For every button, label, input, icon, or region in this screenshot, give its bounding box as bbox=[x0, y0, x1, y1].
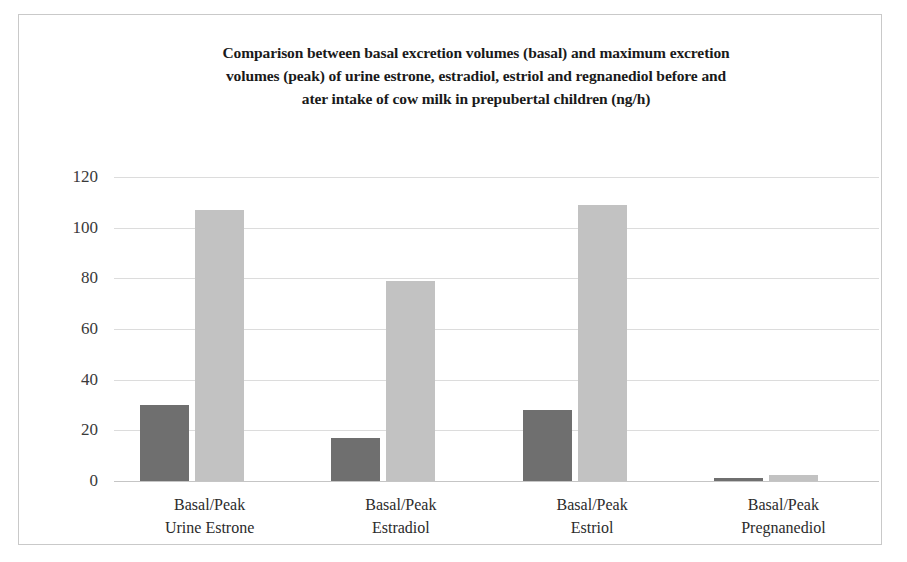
y-tick-label-20: 20 bbox=[81, 420, 98, 440]
chart-title-line-2: volumes (peak) of urine estrone, estradi… bbox=[91, 64, 861, 87]
x-axis-label-4-line-1: Basal/Peak bbox=[688, 493, 878, 516]
gridline-0 bbox=[114, 481, 879, 482]
plot-area: 020406080100120 bbox=[114, 177, 879, 481]
x-axis-label-2-line-1: Basal/Peak bbox=[306, 493, 496, 516]
y-tick-label-40: 40 bbox=[81, 370, 98, 390]
bar-peak-4[interactable] bbox=[769, 475, 818, 481]
bar-basal-4[interactable] bbox=[714, 478, 763, 481]
bar-peak-1[interactable] bbox=[195, 210, 244, 481]
x-axis-label-2-line-2: Estradiol bbox=[306, 516, 496, 539]
y-tick-label-60: 60 bbox=[81, 319, 98, 339]
y-tick-label-0: 0 bbox=[90, 471, 99, 491]
bar-group-3 bbox=[497, 177, 688, 481]
bar-group-1 bbox=[114, 177, 305, 481]
x-axis-label-3-line-1: Basal/Peak bbox=[497, 493, 687, 516]
bar-peak-3[interactable] bbox=[578, 205, 627, 481]
bar-series-container bbox=[114, 177, 879, 481]
x-axis-label-1: Basal/PeakUrine Estrone bbox=[115, 493, 305, 539]
bar-group-2 bbox=[305, 177, 496, 481]
x-axis-label-3-line-2: Estriol bbox=[497, 516, 687, 539]
x-axis-label-1-line-2: Urine Estrone bbox=[115, 516, 305, 539]
chart-title-line-1: Comparison between basal excretion volum… bbox=[91, 41, 861, 64]
bar-group-4 bbox=[688, 177, 879, 481]
chart-frame: Comparison between basal excretion volum… bbox=[18, 14, 882, 545]
bar-peak-2[interactable] bbox=[386, 281, 435, 481]
x-axis-label-1-line-1: Basal/Peak bbox=[115, 493, 305, 516]
x-axis-label-4: Basal/PeakPregnanediol bbox=[688, 493, 878, 539]
y-tick-label-120: 120 bbox=[73, 167, 99, 187]
bar-basal-3[interactable] bbox=[523, 410, 572, 481]
chart-title: Comparison between basal excretion volum… bbox=[91, 41, 861, 110]
chart-page: Comparison between basal excretion volum… bbox=[0, 0, 907, 562]
y-tick-label-100: 100 bbox=[73, 218, 99, 238]
y-tick-label-80: 80 bbox=[81, 268, 98, 288]
bar-basal-2[interactable] bbox=[331, 438, 380, 481]
x-axis-labels: Basal/PeakUrine EstroneBasal/PeakEstradi… bbox=[114, 493, 879, 553]
bar-basal-1[interactable] bbox=[140, 405, 189, 481]
x-axis-label-2: Basal/PeakEstradiol bbox=[306, 493, 496, 539]
x-axis-label-3: Basal/PeakEstriol bbox=[497, 493, 687, 539]
x-axis-label-4-line-2: Pregnanediol bbox=[688, 516, 878, 539]
chart-title-line-3: ater intake of cow milk in prepubertal c… bbox=[91, 87, 861, 110]
